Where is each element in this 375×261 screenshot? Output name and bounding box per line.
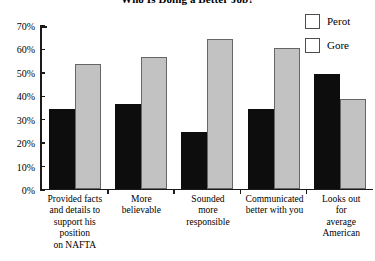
y-axis-tick-label: 10% [17, 161, 35, 172]
y-axis-tick [40, 189, 45, 191]
y-axis-tick-label: 70% [17, 21, 35, 32]
y-axis-tick-label: 50% [17, 67, 35, 78]
bar-group [307, 26, 373, 189]
bar-group [42, 26, 108, 189]
x-axis-label: Communicatedbetter with you [241, 194, 308, 251]
plot-area: 70%60%50%40%30%20%10%0% [40, 26, 373, 190]
y-axis-tick-label: 30% [17, 114, 35, 125]
bar-groups [42, 26, 374, 189]
bar-group [174, 26, 240, 189]
bar-gore [274, 48, 300, 189]
x-axis-baseline [40, 189, 373, 191]
y-axis-tick-label: 60% [17, 44, 35, 55]
bar-perot [181, 132, 207, 188]
bar-group [240, 26, 306, 189]
y-axis-tick-label: 20% [17, 138, 35, 149]
x-axis-label: Looks outforaverageAmerican [308, 194, 375, 251]
y-axis-tick-label: 40% [17, 91, 35, 102]
bar-chart: Who Is Doing a Better Job? Perot Gore 70… [0, 0, 375, 261]
bar-gore [207, 39, 233, 189]
bar-gore [340, 99, 366, 188]
bar-perot [49, 109, 75, 189]
bar-group [108, 26, 174, 189]
x-axis-label: Provided factsand details tosupport hisp… [42, 194, 109, 251]
x-axis-labels: Provided factsand details tosupport hisp… [42, 194, 375, 251]
bar-perot [248, 109, 274, 189]
bar-gore [141, 57, 167, 188]
y-axis-tick-label: 0% [22, 185, 35, 196]
bar-perot [115, 104, 141, 188]
chart-title: Who Is Doing a Better Job? [0, 0, 375, 5]
bar-perot [314, 74, 340, 189]
x-axis-label: Morebelievable [108, 194, 175, 251]
bar-gore [75, 64, 101, 188]
x-axis-label: Soundedmoreresponsible [175, 194, 242, 251]
